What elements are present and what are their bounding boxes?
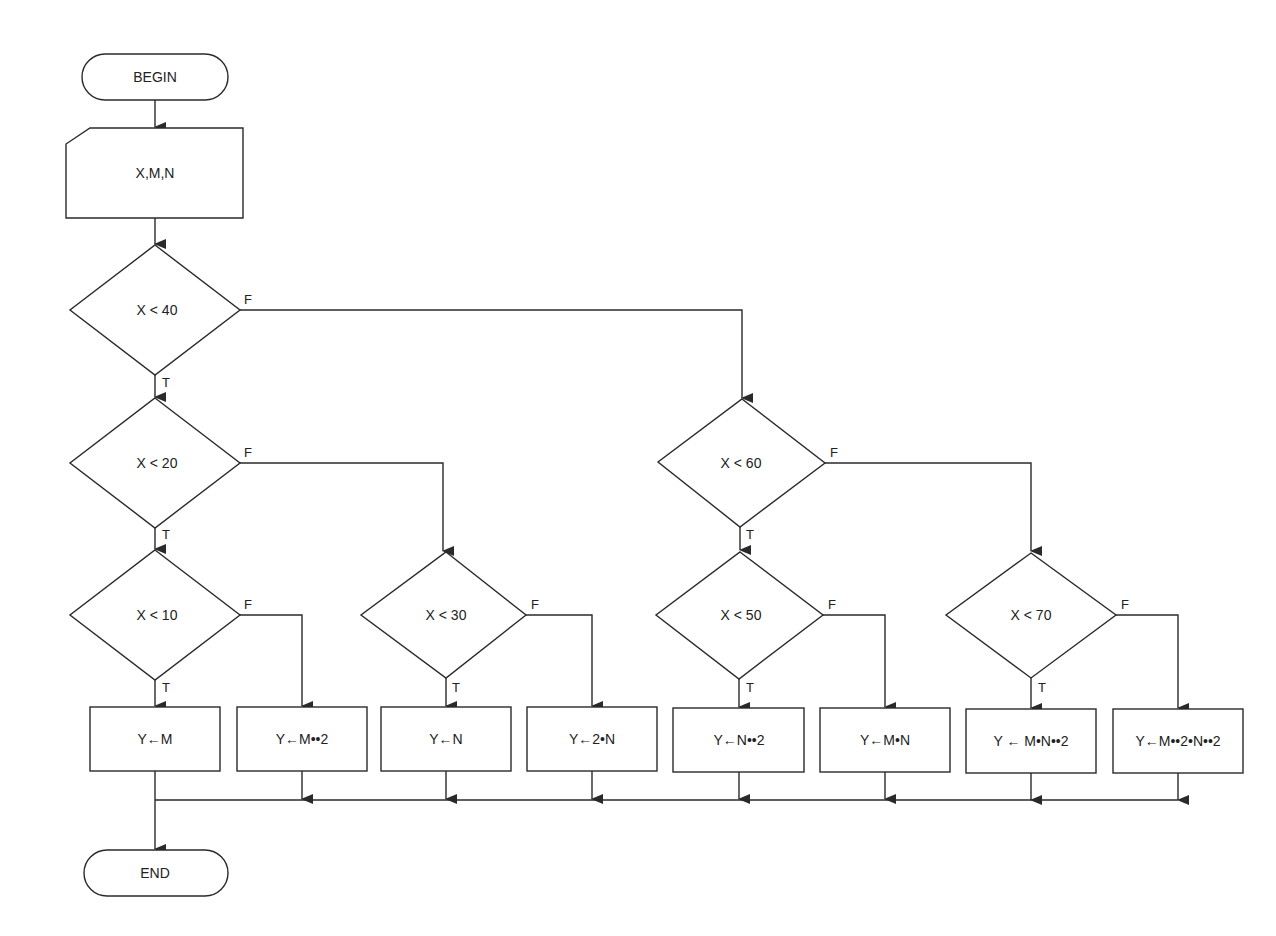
process-y-m: Y←M <box>90 707 220 771</box>
process-label: Y←M••2 <box>276 731 329 747</box>
decision-x-lt-10: X < 10 F T <box>70 550 252 695</box>
end-label: END <box>140 865 170 881</box>
process-label: Y←M <box>138 731 173 747</box>
true-label: T <box>162 527 170 542</box>
decision-label: X < 10 <box>137 607 178 623</box>
true-label: T <box>746 680 754 695</box>
process-label: Y←M••2•N••2 <box>1135 733 1220 749</box>
decision-label: X < 30 <box>426 607 467 623</box>
process-y-n: Y←N <box>381 707 511 771</box>
process-y-2n: Y←2•N <box>527 707 657 771</box>
true-label: T <box>746 527 754 542</box>
begin-label: BEGIN <box>133 69 177 85</box>
process-y-m-times-n: Y←M•N <box>820 708 950 772</box>
true-label: T <box>162 375 170 390</box>
process-y-m-n-squared: Y ← M•N••2 <box>966 709 1096 773</box>
decision-label: X < 20 <box>137 455 178 471</box>
input-card-xmn: X,M,N <box>66 128 243 218</box>
decision-label: X < 70 <box>1011 607 1052 623</box>
true-label: T <box>162 680 170 695</box>
process-label: Y←M•N <box>860 732 910 748</box>
process-label: Y←N <box>429 731 462 747</box>
process-label: Y ← M•N••2 <box>993 733 1068 749</box>
begin-terminator: BEGIN <box>82 54 228 100</box>
false-label: F <box>828 597 836 612</box>
false-label: F <box>244 597 252 612</box>
process-label: Y←2•N <box>569 731 615 747</box>
true-label: T <box>1038 680 1046 695</box>
flowchart-canvas: BEGIN X,M,N X < 40 F T X < 20 F T X < 10… <box>0 0 1276 936</box>
process-y-m2-n2: Y←M••2•N••2 <box>1113 709 1243 773</box>
decision-label: X < 60 <box>721 455 762 471</box>
process-label: Y←N••2 <box>713 732 764 748</box>
process-y-n-squared: Y←N••2 <box>673 708 804 772</box>
decision-x-lt-70: X < 70 F T <box>946 553 1129 695</box>
end-terminator: END <box>84 850 228 896</box>
true-label: T <box>452 680 460 695</box>
false-label: F <box>244 292 252 307</box>
false-label: F <box>244 445 252 460</box>
decision-x-lt-30: X < 30 F T <box>361 552 539 695</box>
decision-x-lt-20: X < 20 F T <box>70 398 252 542</box>
decision-x-lt-40: X < 40 F T <box>70 245 252 390</box>
decision-label: X < 50 <box>721 607 762 623</box>
decision-x-lt-50: X < 50 F T <box>656 552 836 695</box>
decision-label: X < 40 <box>137 302 178 318</box>
false-label: F <box>531 597 539 612</box>
false-label: F <box>1121 597 1129 612</box>
decision-x-lt-60: X < 60 F T <box>658 399 838 542</box>
process-y-m-squared: Y←M••2 <box>237 707 367 771</box>
input-label: X,M,N <box>136 165 175 181</box>
false-label: F <box>830 445 838 460</box>
